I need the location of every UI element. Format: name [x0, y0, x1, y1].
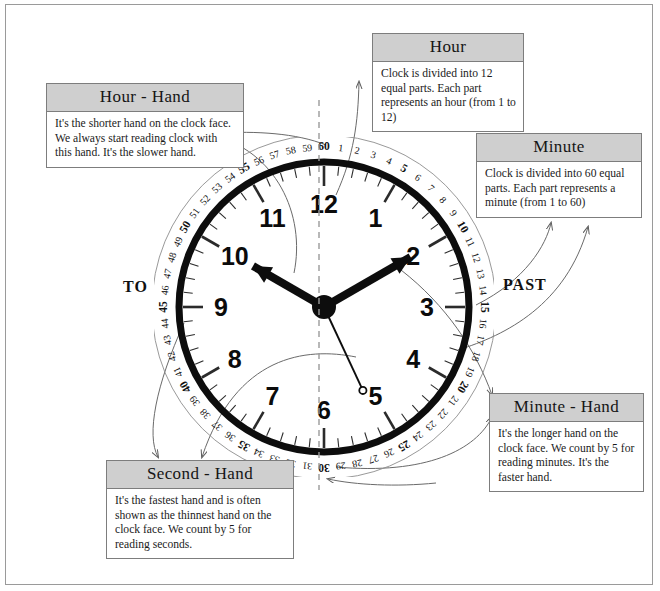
svg-text:6: 6: [413, 172, 424, 184]
callout-minute-body: Clock is divided into 60 equal parts. Ea…: [477, 162, 641, 217]
svg-text:53: 53: [209, 181, 224, 196]
svg-text:10: 10: [221, 242, 249, 270]
svg-text:50: 50: [177, 219, 193, 235]
callout-minute-hand[interactable]: Minute - Hand It's the longer hand on th…: [489, 393, 644, 492]
svg-text:26: 26: [382, 446, 396, 460]
svg-text:43: 43: [161, 334, 174, 346]
svg-text:36: 36: [223, 429, 238, 444]
svg-text:47: 47: [161, 268, 174, 280]
svg-text:17: 17: [474, 334, 487, 346]
svg-text:8: 8: [437, 194, 449, 205]
svg-text:23: 23: [424, 419, 439, 434]
svg-text:8: 8: [228, 345, 242, 373]
svg-text:7: 7: [426, 182, 437, 194]
svg-text:5: 5: [369, 382, 383, 410]
callout-hour[interactable]: Hour Clock is divided into 12 equal part…: [372, 33, 524, 132]
svg-text:42: 42: [165, 350, 179, 363]
callout-second-hand-title: Second - Hand: [107, 461, 293, 489]
svg-text:14: 14: [477, 285, 489, 296]
callout-hour-hand[interactable]: Hour - Hand It's the shorter hand on the…: [46, 83, 244, 168]
svg-text:7: 7: [266, 382, 280, 410]
svg-text:3: 3: [420, 293, 434, 321]
svg-text:30: 30: [318, 462, 330, 474]
svg-text:3: 3: [369, 149, 377, 161]
svg-text:19: 19: [463, 365, 477, 379]
svg-text:13: 13: [474, 268, 487, 280]
svg-text:27: 27: [367, 452, 380, 466]
callout-hour-title: Hour: [373, 34, 523, 62]
svg-text:25: 25: [396, 438, 412, 454]
svg-text:18: 18: [469, 350, 483, 363]
page-frame: 6012345678910111213141516171819202122232…: [5, 4, 653, 585]
svg-text:52: 52: [198, 192, 213, 207]
svg-text:10: 10: [455, 219, 471, 235]
svg-text:37: 37: [209, 419, 224, 434]
svg-text:5: 5: [399, 161, 410, 174]
svg-text:6: 6: [317, 396, 331, 424]
callout-minute-hand-body: It's the longer hand on the clock face. …: [490, 422, 643, 491]
svg-text:1: 1: [338, 142, 344, 153]
svg-text:40: 40: [177, 379, 193, 395]
clock-face: 6012345678910111213141516171819202122232…: [154, 137, 494, 477]
svg-text:12: 12: [469, 251, 483, 264]
label-to: TO: [123, 278, 148, 296]
label-past: PAST: [503, 276, 547, 294]
callout-minute-title: Minute: [477, 134, 641, 162]
svg-text:20: 20: [455, 379, 471, 395]
svg-text:11: 11: [463, 235, 477, 248]
svg-text:41: 41: [171, 365, 185, 379]
svg-text:56: 56: [252, 154, 266, 168]
svg-text:21: 21: [446, 394, 461, 409]
svg-text:9: 9: [214, 293, 228, 321]
callout-hour-body: Clock is divided into 12 equal parts. Ea…: [373, 62, 523, 131]
clock-svg: 6012345678910111213141516171819202122232…: [154, 137, 494, 477]
svg-text:12: 12: [310, 190, 338, 218]
svg-text:58: 58: [285, 144, 297, 157]
svg-text:54: 54: [223, 170, 238, 185]
callout-second-hand[interactable]: Second - Hand It's the fastest hand and …: [106, 460, 294, 559]
svg-text:9: 9: [448, 208, 460, 219]
svg-text:59: 59: [302, 142, 313, 154]
svg-text:44: 44: [159, 318, 171, 329]
svg-text:28: 28: [351, 457, 363, 470]
svg-text:16: 16: [477, 318, 489, 329]
svg-text:39: 39: [187, 394, 202, 409]
svg-text:49: 49: [171, 235, 185, 249]
svg-text:1: 1: [369, 204, 383, 232]
svg-text:57: 57: [268, 148, 281, 162]
svg-text:24: 24: [411, 429, 426, 444]
svg-text:38: 38: [198, 407, 213, 422]
svg-text:34: 34: [252, 446, 266, 460]
svg-text:22: 22: [436, 407, 451, 422]
svg-text:48: 48: [165, 251, 179, 264]
callout-hour-hand-title: Hour - Hand: [47, 84, 243, 112]
svg-text:15: 15: [479, 301, 491, 313]
svg-text:29: 29: [335, 460, 346, 472]
callout-hour-hand-body: It's the shorter hand on the clock face.…: [47, 112, 243, 167]
callout-minute-hand-title: Minute - Hand: [490, 394, 643, 422]
svg-text:31: 31: [302, 460, 313, 472]
svg-text:4: 4: [385, 155, 394, 167]
callout-minute[interactable]: Minute Clock is divided into 60 equal pa…: [476, 133, 642, 218]
svg-text:51: 51: [187, 206, 202, 221]
callout-second-hand-body: It's the fastest hand and is often shown…: [107, 489, 293, 558]
svg-text:35: 35: [236, 438, 252, 454]
svg-text:11: 11: [259, 204, 286, 232]
svg-text:46: 46: [159, 285, 171, 296]
svg-text:4: 4: [406, 345, 420, 373]
svg-text:60: 60: [318, 140, 330, 152]
svg-text:45: 45: [157, 301, 169, 313]
svg-text:2: 2: [354, 144, 361, 156]
